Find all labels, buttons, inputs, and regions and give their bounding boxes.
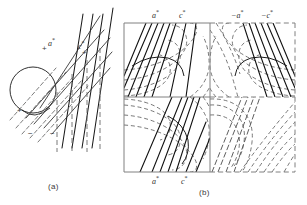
panel-a-caption: (a) (48, 182, 59, 191)
lattice-rows-solid (62, 8, 113, 148)
panel-b (124, 23, 295, 172)
panel-a (10, 8, 113, 152)
rays-bl (140, 97, 210, 172)
panel-b-label-bottom-a-star: a* (152, 175, 159, 186)
panel-a-sign-minus-2: − (50, 129, 55, 138)
panel-b-caption: (b) (199, 188, 210, 197)
contours-bl (124, 97, 216, 172)
panel-b-label-bottom-c-star: c* (181, 175, 188, 186)
quadrant-bottom-left (124, 97, 216, 172)
contours-tl (124, 23, 216, 97)
dashed-traces (10, 68, 88, 142)
rays-tr (243, 23, 295, 97)
lattice-rows-shallow (26, 16, 112, 134)
panel-b-label-top-neg-c-star: −c* (261, 9, 273, 20)
quadrant-top-left (124, 23, 216, 97)
panel-a-sign-minus-1: − (28, 129, 33, 138)
panel-a-label-a-star: a* (48, 37, 55, 48)
quadrant-bottom-right (210, 97, 295, 172)
panel-a-sign-plus-3: + (17, 106, 22, 115)
rays-br (212, 97, 260, 172)
quadrant-top-right (203, 23, 295, 97)
panel-b-label-top-neg-a-star: −a* (231, 9, 243, 20)
panel-b-label-top-c-star: c* (179, 9, 186, 20)
panel-a-sign-plus-2: + (82, 48, 87, 57)
panel-a-sign-plus-1: + (42, 44, 47, 53)
contours-tr (203, 23, 295, 97)
panel-b-label-top-a-star: a* (152, 9, 159, 20)
